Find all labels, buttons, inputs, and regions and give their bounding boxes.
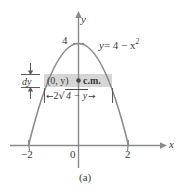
y-axis-label: y [81, 14, 86, 25]
x-axis-label: x [169, 139, 174, 150]
strip-width-radicand: 4 − y [65, 89, 88, 101]
x-tick-label-2: 2 [125, 149, 131, 160]
radical-icon: √ [59, 90, 65, 101]
x-axis-arrowhead [160, 142, 167, 148]
parabola-centroid-figure: y x 4 −2 0 2 y= 4 − x2 dy (0, y) c.m. ←2… [0, 0, 182, 193]
centroid-coordinate-text: (0, y) [47, 75, 69, 86]
figure-caption: (a) [79, 172, 91, 183]
strip-width-left-arrow-icon: ← [46, 91, 54, 101]
center-of-mass-label: c.m. [83, 76, 101, 86]
y-tick-label-4: 4 [62, 35, 68, 46]
center-of-mass-dot [76, 78, 81, 83]
curve-equation-label: y= 4 − x2 [99, 38, 139, 51]
strip-width-label: ←2√4 − y→ [46, 91, 96, 101]
x-tick-label-neg2: −2 [21, 149, 33, 160]
curve-equation-rhs: = 4 − x [104, 39, 136, 51]
x-tick-label-0: 0 [70, 149, 76, 160]
centroid-coordinate-label: (0, y) [47, 76, 69, 86]
strip-width-right-arrow-icon: → [88, 91, 96, 101]
curve-equation-exponent: 2 [136, 37, 140, 46]
strip-thickness-label: dy [22, 77, 31, 87]
